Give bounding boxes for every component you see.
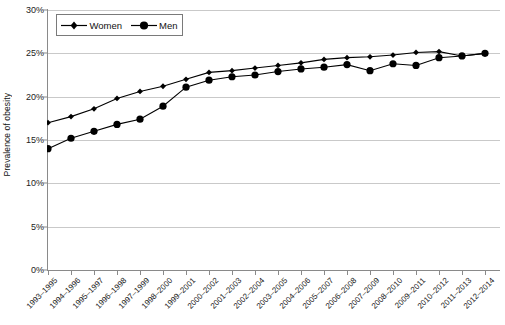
obesity-prevalence-chart: Prevalence of obesity 0%5%10%15%20%25%30… — [0, 0, 505, 325]
y-axis-tick-mark — [42, 270, 47, 271]
x-axis-tick-mark — [94, 271, 95, 275]
y-axis-tick-mark — [42, 183, 47, 184]
x-axis-tick-mark — [186, 271, 187, 275]
series-line-women — [48, 52, 485, 123]
data-point-women — [91, 106, 97, 112]
y-axis-tick-mark — [42, 140, 47, 141]
legend-label-men: Men — [159, 20, 177, 31]
data-point-men — [343, 61, 350, 68]
data-point-women — [160, 83, 166, 89]
legend-marker-circle-icon — [131, 20, 157, 31]
data-point-women — [367, 54, 373, 60]
x-axis-tick-mark — [393, 271, 394, 275]
data-point-women — [137, 89, 143, 95]
data-point-men — [366, 67, 373, 74]
x-axis-tick-mark — [255, 271, 256, 275]
x-axis-tick-mark — [209, 271, 210, 275]
data-point-men — [458, 52, 465, 59]
data-point-men — [412, 62, 419, 69]
data-point-men — [320, 64, 327, 71]
x-axis-tick-mark — [485, 271, 486, 275]
data-point-women — [344, 55, 350, 61]
y-axis-tick-mark — [42, 96, 47, 97]
x-axis-tick-mark — [301, 271, 302, 275]
x-axis-tick-mark — [416, 271, 417, 275]
y-axis-title-text: Prevalence of obesity — [2, 93, 12, 176]
x-axis-tick-mark — [71, 271, 72, 275]
data-point-men — [228, 73, 235, 80]
x-axis-tick-mark — [462, 271, 463, 275]
data-point-women — [275, 63, 281, 69]
chart-legend: Women Men — [56, 14, 183, 36]
data-point-men — [136, 116, 143, 123]
legend-label-women: Women — [89, 20, 122, 31]
x-axis-tick-mark — [278, 271, 279, 275]
data-point-women — [436, 49, 442, 55]
data-point-men — [159, 103, 166, 110]
data-point-women — [206, 70, 212, 76]
x-axis-tick-mark — [232, 271, 233, 275]
data-point-women — [114, 96, 120, 102]
data-point-men — [435, 54, 442, 61]
data-point-men — [205, 77, 212, 84]
data-point-men — [90, 128, 97, 135]
x-axis-tick-mark — [48, 271, 49, 275]
data-point-men — [67, 135, 74, 142]
y-axis-title: Prevalence of obesity — [0, 0, 15, 270]
x-axis-tick-mark — [117, 271, 118, 275]
y-axis-tick-mark — [42, 226, 47, 227]
data-point-men — [274, 68, 281, 75]
data-point-men — [251, 71, 258, 78]
data-point-women — [68, 114, 74, 120]
x-axis-tick-mark — [347, 271, 348, 275]
x-axis-tick-mark — [370, 271, 371, 275]
data-point-women — [321, 57, 327, 63]
y-axis-tick-mark — [42, 53, 47, 54]
data-point-women — [298, 60, 304, 66]
data-point-men — [113, 121, 120, 128]
legend-item-women: Women — [61, 20, 122, 31]
data-point-men — [297, 65, 304, 72]
x-axis-tick-mark — [140, 271, 141, 275]
series-line-men — [48, 53, 485, 148]
x-axis-tick-mark — [324, 271, 325, 275]
y-axis-tick-mark — [42, 10, 47, 11]
series-layer — [47, 10, 500, 272]
x-axis-tick-mark — [163, 271, 164, 275]
data-point-women — [47, 120, 51, 126]
x-axis-tick-labels: 1993–19951994–19961995–19971996–19981997… — [0, 274, 505, 325]
legend-marker-diamond-icon — [61, 20, 87, 31]
y-axis-tick-labels: 0%5%10%15%20%25%30% — [16, 0, 47, 281]
data-point-men — [47, 145, 52, 152]
data-point-men — [389, 60, 396, 67]
data-point-women — [229, 68, 235, 74]
data-point-women — [252, 65, 258, 71]
x-axis-tick-mark — [439, 271, 440, 275]
data-point-men — [481, 50, 488, 57]
data-point-women — [390, 52, 396, 58]
legend-item-men: Men — [131, 20, 177, 31]
data-point-women — [183, 76, 189, 82]
data-point-men — [182, 84, 189, 91]
data-point-women — [413, 50, 419, 56]
